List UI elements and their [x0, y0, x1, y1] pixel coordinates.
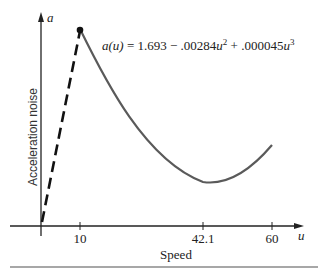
y-axis-symbol: a	[47, 10, 54, 25]
equation-label: a(u) = 1.693 − .00284u2 + .000045u3	[102, 37, 295, 53]
chart: a u 10 42.1 60 Speed Acceleration noise …	[0, 0, 318, 274]
y-axis-arrow-icon	[38, 12, 44, 22]
x-tick-label-42-1: 42.1	[192, 231, 215, 246]
dashed-segment	[42, 31, 80, 222]
peak-point-marker	[77, 27, 84, 34]
x-tick-label-10: 10	[74, 231, 87, 246]
y-axis-label: Acceleration noise	[26, 88, 40, 186]
x-axis-symbol: u	[298, 228, 305, 243]
x-axis-label: Speed	[160, 247, 192, 262]
x-tick-label-60: 60	[266, 231, 279, 246]
